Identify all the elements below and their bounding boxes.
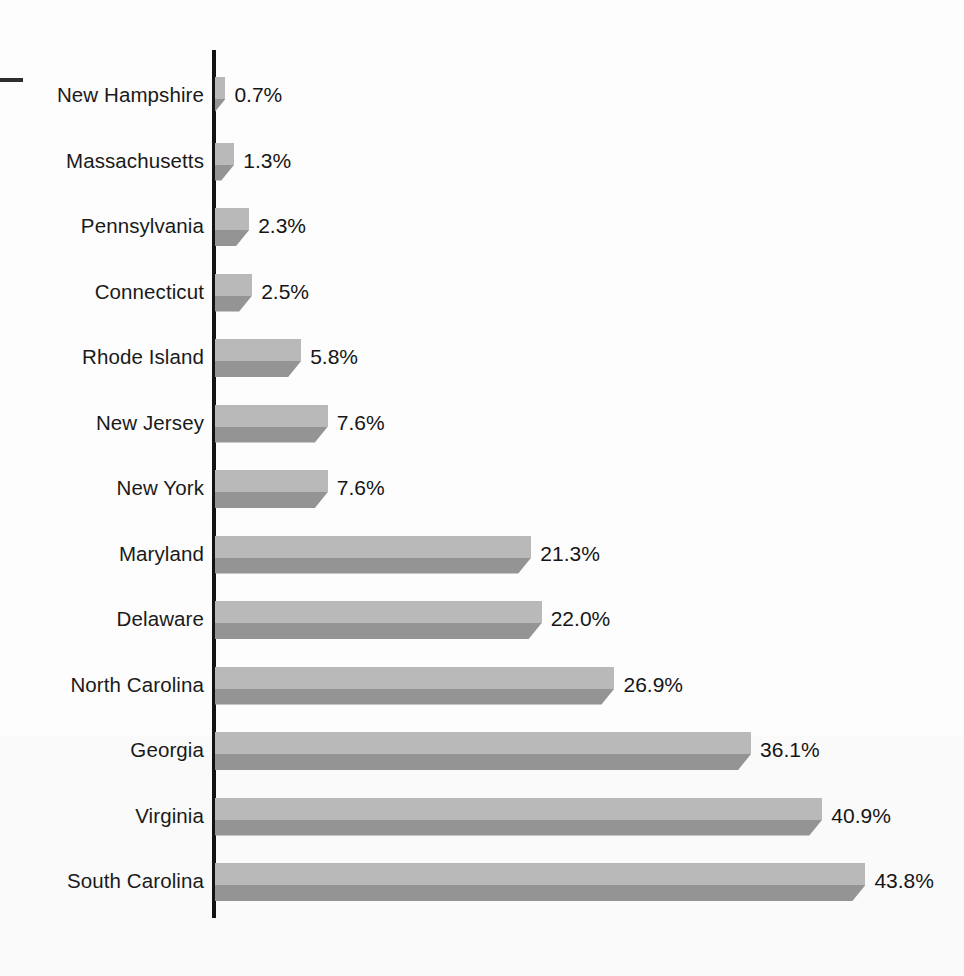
bar-top-face	[215, 274, 252, 296]
category-label: Maryland	[119, 526, 204, 582]
category-label: Virginia	[135, 788, 204, 844]
category-label: South Carolina	[67, 853, 204, 909]
category-label: Georgia	[130, 722, 204, 778]
category-label: Pennsylvania	[81, 198, 204, 254]
bar	[215, 77, 225, 115]
bar-front-face	[215, 820, 822, 836]
bar-row: New Hampshire0.7%	[0, 67, 964, 123]
bar-top-face	[215, 667, 614, 689]
category-label: New York	[117, 460, 204, 516]
bar-row: Maryland21.3%	[0, 526, 964, 582]
bar-top-face	[215, 601, 542, 623]
bar-top-face	[215, 798, 822, 820]
bar-value-label: 1.3%	[243, 133, 291, 189]
bar	[215, 667, 614, 705]
bar-front-face	[215, 427, 328, 443]
bar-value-label: 36.1%	[760, 722, 820, 778]
bar-top-face	[215, 863, 865, 885]
bar-value-label: 7.6%	[337, 395, 385, 451]
bar-value-label: 26.9%	[623, 657, 683, 713]
bar-value-label: 22.0%	[551, 591, 611, 647]
bar-top-face	[215, 143, 234, 165]
category-label: Connecticut	[95, 264, 204, 320]
category-label: Delaware	[117, 591, 204, 647]
bar-front-face	[215, 165, 234, 181]
bar	[215, 143, 234, 181]
category-label: Rhode Island	[82, 329, 204, 385]
bar-front-face	[215, 230, 249, 246]
category-label: Massachusetts	[66, 133, 204, 189]
bar-row: New York7.6%	[0, 460, 964, 516]
bar	[215, 208, 249, 246]
bar-front-face	[215, 885, 865, 901]
bar-front-face	[215, 99, 225, 115]
bar-top-face	[215, 208, 249, 230]
bar-front-face	[215, 296, 252, 312]
bar-value-label: 0.7%	[234, 67, 282, 123]
bar-front-face	[215, 492, 328, 508]
bar-top-face	[215, 470, 328, 492]
bar-row: Virginia40.9%	[0, 788, 964, 844]
bar-row: Rhode Island5.8%	[0, 329, 964, 385]
bar	[215, 470, 328, 508]
bar-top-face	[215, 732, 751, 754]
category-label: New Jersey	[96, 395, 204, 451]
bar-value-label: 40.9%	[831, 788, 891, 844]
bar-row: South Carolina43.8%	[0, 853, 964, 909]
bar	[215, 339, 301, 377]
bar-row: Connecticut2.5%	[0, 264, 964, 320]
bar	[215, 732, 751, 770]
bar	[215, 601, 542, 639]
category-label: North Carolina	[70, 657, 204, 713]
bar-value-label: 21.3%	[540, 526, 600, 582]
bar-chart: New Hampshire0.7%Massachusetts1.3%Pennsy…	[0, 0, 964, 976]
bar	[215, 405, 328, 443]
bar-front-face	[215, 361, 301, 377]
bar-top-face	[215, 77, 225, 99]
bar-row: Massachusetts1.3%	[0, 133, 964, 189]
bar-front-face	[215, 754, 751, 770]
bar-row: Pennsylvania2.3%	[0, 198, 964, 254]
bar	[215, 798, 822, 836]
bar-row: Delaware22.0%	[0, 591, 964, 647]
bar-top-face	[215, 536, 531, 558]
bar	[215, 274, 252, 312]
bar-row: Georgia36.1%	[0, 722, 964, 778]
bar-front-face	[215, 623, 542, 639]
bar	[215, 536, 531, 574]
bar-value-label: 2.3%	[258, 198, 306, 254]
bar-value-label: 7.6%	[337, 460, 385, 516]
bar-row: North Carolina26.9%	[0, 657, 964, 713]
bar-row: New Jersey7.6%	[0, 395, 964, 451]
bar-value-label: 43.8%	[874, 853, 934, 909]
bar-value-label: 2.5%	[261, 264, 309, 320]
bar-front-face	[215, 689, 614, 705]
bar-top-face	[215, 405, 328, 427]
bar-value-label: 5.8%	[310, 329, 358, 385]
bar-top-face	[215, 339, 301, 361]
category-label: New Hampshire	[57, 67, 204, 123]
bar-front-face	[215, 558, 531, 574]
bar	[215, 863, 865, 901]
